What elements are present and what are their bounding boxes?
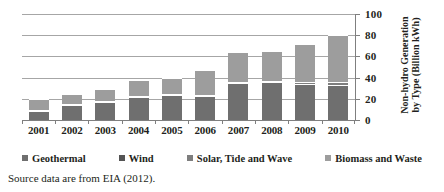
- segment-biomass: [262, 51, 282, 81]
- y-tick-80: [355, 35, 360, 36]
- y-tick-20: [355, 99, 360, 100]
- y-tick-60: [355, 56, 360, 57]
- segment-biomass: [129, 80, 149, 96]
- stacked-bar[interactable]: [295, 44, 315, 120]
- y-axis-title-line2: by Type (Billion kWh): [410, 18, 421, 113]
- y-tick-label-60: 60: [365, 51, 376, 61]
- chart-figure: 100 80 60 40 20 0 2001 2002 2003 2004 20…: [0, 0, 444, 192]
- y-axis-line: [355, 14, 356, 120]
- legend-item-wind[interactable]: Wind: [119, 153, 154, 164]
- legend-item-biomass-and-waste[interactable]: Biomass and Waste: [325, 153, 422, 164]
- stacked-bar[interactable]: [262, 51, 282, 120]
- x-label-2005: 2005: [155, 124, 188, 136]
- segment-geothermal: [162, 95, 182, 120]
- segment-geothermal: [62, 105, 82, 120]
- segment-biomass: [162, 78, 182, 94]
- segment-geothermal: [129, 97, 149, 120]
- segment-biomass: [295, 44, 315, 82]
- x-label-2002: 2002: [55, 124, 88, 136]
- legend-swatch-icon: [187, 155, 193, 161]
- bar-column-2005: [155, 14, 188, 120]
- segment-geothermal: [95, 102, 115, 120]
- stacked-bar[interactable]: [62, 94, 82, 120]
- y-tick-label-20: 20: [365, 94, 376, 104]
- segment-geothermal: [295, 84, 315, 120]
- legend-item-solar-tide-wave[interactable]: Solar, Tide and Wave: [187, 153, 292, 164]
- y-axis-title: Non-hydro Generation by Type (Billion kW…: [378, 8, 442, 128]
- chart-legend: Geothermal Wind Solar, Tide and Wave Bio…: [22, 150, 422, 166]
- segment-biomass: [195, 70, 215, 95]
- legend-label: Solar, Tide and Wave: [197, 153, 292, 164]
- legend-swatch-icon: [325, 155, 331, 161]
- bar-column-2008: [255, 14, 288, 120]
- stacked-bar[interactable]: [129, 80, 149, 120]
- y-tick-label-0: 0: [365, 115, 371, 125]
- segment-biomass: [328, 35, 348, 82]
- legend-label: Wind: [129, 153, 154, 164]
- x-label-2007: 2007: [222, 124, 255, 136]
- bar-column-2004: [122, 14, 155, 120]
- y-tick-label-80: 80: [365, 30, 376, 40]
- x-label-2006: 2006: [188, 124, 221, 136]
- stacked-bar[interactable]: [29, 99, 49, 120]
- segment-biomass: [29, 99, 49, 110]
- segment-geothermal: [262, 82, 282, 120]
- segment-biomass: [95, 89, 115, 101]
- segment-biomass: [228, 52, 248, 82]
- stacked-bar[interactable]: [162, 78, 182, 120]
- segment-geothermal: [195, 96, 215, 120]
- bar-column-2009: [288, 14, 321, 120]
- legend-label: Biomass and Waste: [335, 153, 422, 164]
- stacked-bar[interactable]: [195, 70, 215, 120]
- bar-column-2010: [322, 14, 355, 120]
- x-label-2010: 2010: [322, 124, 355, 136]
- x-label-2001: 2001: [22, 124, 55, 136]
- x-axis-labels: 2001 2002 2003 2004 2005 2006 2007 2008 …: [22, 124, 355, 136]
- y-tick-label-40: 40: [365, 73, 376, 83]
- bar-column-2007: [222, 14, 255, 120]
- stacked-bar[interactable]: [228, 52, 248, 120]
- bar-column-2003: [89, 14, 122, 120]
- stacked-bar[interactable]: [95, 89, 115, 120]
- bar-group: [22, 14, 355, 120]
- segment-geothermal: [29, 111, 49, 120]
- bar-column-2006: [188, 14, 221, 120]
- y-tick-100: [355, 14, 360, 15]
- legend-swatch-icon: [22, 155, 28, 161]
- segment-geothermal: [228, 83, 248, 120]
- y-tick-0: [355, 120, 360, 121]
- bar-column-2001: [22, 14, 55, 120]
- legend-item-geothermal[interactable]: Geothermal: [22, 153, 86, 164]
- x-label-2004: 2004: [122, 124, 155, 136]
- y-tick-40: [355, 78, 360, 79]
- legend-label: Geothermal: [32, 153, 86, 164]
- plot-area: 100 80 60 40 20 0 2001 2002 2003 2004 20…: [22, 14, 379, 126]
- x-label-2009: 2009: [288, 124, 321, 136]
- y-axis-title-line1: Non-hydro Generation: [399, 16, 410, 113]
- x-label-2003: 2003: [89, 124, 122, 136]
- legend-swatch-icon: [119, 155, 125, 161]
- plot-canvas: 100 80 60 40 20 0 2001 2002 2003 2004 20…: [22, 14, 355, 120]
- segment-geothermal: [328, 85, 348, 120]
- bar-column-2002: [55, 14, 88, 120]
- segment-biomass: [62, 94, 82, 104]
- stacked-bar[interactable]: [328, 35, 348, 120]
- source-caption: Source data are from EIA (2012).: [8, 172, 155, 184]
- x-label-2008: 2008: [255, 124, 288, 136]
